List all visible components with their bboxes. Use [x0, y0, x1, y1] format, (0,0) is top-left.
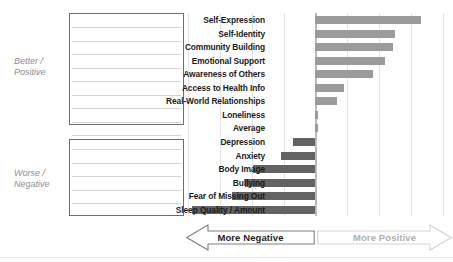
- category-label: Awareness of Others: [85, 68, 265, 81]
- category-label: Sleep Quality / Amount: [85, 204, 265, 217]
- bar-access-to-health-info: [315, 84, 344, 92]
- bar-depression: [293, 138, 315, 146]
- category-label: Self-Expression: [85, 14, 265, 27]
- axis-arrow-negative: More Negative: [186, 223, 315, 252]
- group-caption-positive: Better / Positive: [14, 56, 46, 78]
- category-label: Emotional Support: [85, 55, 265, 68]
- category-label: Fear of Missing Out: [85, 190, 265, 203]
- diverging-bar-chart: Self-ExpressionSelf-IdentityCommunity Bu…: [0, 0, 453, 262]
- axis-arrow-positive-label: More Positive: [353, 232, 416, 243]
- category-label: Community Building: [85, 41, 265, 54]
- category-label: Average: [85, 122, 265, 135]
- bar-real-world-relationships: [315, 97, 337, 105]
- category-label: Depression: [85, 136, 265, 149]
- category-label: Loneliness: [85, 109, 265, 122]
- bar-anxiety: [281, 152, 315, 160]
- category-label: Self-Identity: [85, 28, 265, 41]
- group-caption-negative: Worse / Negative: [14, 168, 50, 190]
- bar-self-identity: [315, 30, 395, 38]
- bar-emotional-support: [315, 57, 385, 65]
- bar-loneliness: [315, 111, 318, 119]
- bar-community-building: [315, 43, 393, 51]
- bottom-divider: [0, 257, 453, 258]
- category-label: Anxiety: [85, 150, 265, 163]
- category-label: Body Image: [85, 163, 265, 176]
- category-label: Real-World Relationships: [85, 95, 265, 108]
- axis-arrow-positive: More Positive: [317, 223, 452, 252]
- axis-arrow-negative-label: More Negative: [217, 232, 283, 243]
- category-label: Access to Health Info: [85, 82, 265, 95]
- category-label: Bullying: [85, 177, 265, 190]
- bar-average: [315, 124, 318, 132]
- bar-awareness-of-others: [315, 70, 373, 78]
- bar-self-expression: [315, 16, 421, 24]
